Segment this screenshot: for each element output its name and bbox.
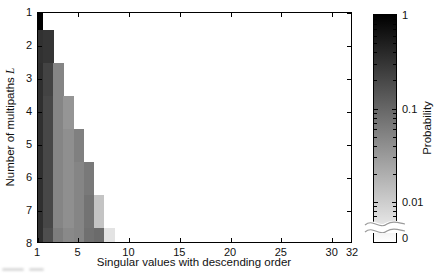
y-tick-label: 3 bbox=[0, 72, 32, 84]
y-tick-mark bbox=[38, 145, 42, 146]
y-tick-label: 8 bbox=[0, 237, 32, 249]
cropped-caption-fragment bbox=[2, 268, 24, 271]
heatmap-cell bbox=[63, 195, 74, 228]
heatmap-cell bbox=[53, 63, 64, 96]
x-tick-mark bbox=[332, 13, 333, 17]
colorbar-minor-tick bbox=[374, 123, 377, 124]
colorbar-minor-tick bbox=[393, 129, 396, 130]
colorbar-major-tick bbox=[392, 109, 396, 110]
heatmap-cell bbox=[74, 195, 85, 228]
colorbar-minor-tick bbox=[374, 211, 377, 212]
y-tick-label: 6 bbox=[0, 171, 32, 183]
heatmap-cell bbox=[53, 129, 64, 162]
x-tick-mark bbox=[129, 13, 130, 17]
colorbar-major-tick bbox=[374, 109, 378, 110]
y-tick-mark bbox=[38, 79, 42, 80]
colorbar-tick-label: 0 bbox=[402, 232, 408, 244]
y-tick-label: 7 bbox=[0, 204, 32, 216]
colorbar-label: Probability bbox=[421, 101, 433, 155]
colorbar-minor-tick bbox=[374, 137, 377, 138]
heatmap-cell bbox=[53, 96, 64, 129]
x-tick-mark bbox=[38, 13, 39, 17]
y-tick-mark bbox=[347, 46, 351, 47]
y-tick-mark bbox=[347, 13, 351, 14]
cropped-caption-fragment bbox=[29, 268, 44, 271]
heatmap-cell bbox=[53, 228, 64, 244]
heatmap-cell bbox=[43, 96, 54, 129]
y-tick-mark bbox=[38, 178, 42, 179]
colorbar-major-tick bbox=[392, 15, 396, 16]
colorbar-minor-tick bbox=[393, 211, 396, 212]
colorbar-minor-tick bbox=[393, 123, 396, 124]
heatmap-cell bbox=[63, 228, 74, 244]
colorbar-minor-tick bbox=[374, 24, 377, 25]
colorbar-major-tick bbox=[374, 202, 378, 203]
heatmap-cell bbox=[43, 195, 54, 228]
heatmap-cell bbox=[94, 195, 105, 228]
x-tick-label: 20 bbox=[224, 246, 236, 258]
y-tick-mark bbox=[347, 145, 351, 146]
colorbar-tick-label: 1 bbox=[402, 9, 408, 21]
heatmap-cell bbox=[84, 228, 95, 244]
x-tick-mark bbox=[332, 238, 333, 242]
heatmap-cell bbox=[63, 96, 74, 129]
heatmap-cell bbox=[43, 30, 54, 63]
y-tick-mark bbox=[38, 13, 42, 14]
y-tick-mark bbox=[38, 112, 42, 113]
y-tick-label: 2 bbox=[0, 39, 32, 51]
x-tick-mark bbox=[231, 13, 232, 17]
colorbar-minor-tick bbox=[374, 118, 377, 119]
x-tick-label: 10 bbox=[122, 246, 134, 258]
heatmap-cell bbox=[104, 228, 115, 244]
colorbar-minor-tick bbox=[374, 113, 377, 114]
y-axis-label: Number of multipaths L bbox=[4, 68, 16, 187]
colorbar-minor-tick bbox=[393, 80, 396, 81]
colorbar-tick-label: 0.01 bbox=[402, 196, 423, 208]
heatmap-plot-area bbox=[37, 12, 352, 243]
heatmap-cell bbox=[53, 195, 64, 228]
colorbar-minor-tick bbox=[393, 43, 396, 44]
heatmap-cell bbox=[53, 162, 64, 195]
colorbar-minor-tick bbox=[374, 216, 377, 217]
heatmap-cell bbox=[63, 162, 74, 195]
heatmap-cell bbox=[74, 129, 85, 162]
colorbar-minor-tick bbox=[374, 64, 377, 65]
colorbar-minor-tick bbox=[374, 174, 377, 175]
colorbar-minor-tick bbox=[374, 146, 377, 147]
colorbar-minor-tick bbox=[393, 52, 396, 53]
heatmap-cell bbox=[43, 63, 54, 96]
x-tick-mark bbox=[281, 13, 282, 17]
heatmap-cell bbox=[43, 228, 54, 244]
heatmap-figure: Singular values with descending order Nu… bbox=[0, 0, 441, 276]
colorbar-minor-tick bbox=[374, 129, 377, 130]
heatmap-cell bbox=[43, 129, 54, 162]
x-tick-mark bbox=[78, 238, 79, 242]
colorbar-minor-tick bbox=[374, 157, 377, 158]
colorbar-minor-tick bbox=[393, 36, 396, 37]
y-tick-mark bbox=[38, 211, 42, 212]
colorbar-gradient bbox=[373, 14, 397, 225]
y-tick-mark bbox=[347, 178, 351, 179]
x-tick-mark bbox=[129, 238, 130, 242]
y-tick-label: 1 bbox=[0, 6, 32, 18]
colorbar-minor-tick bbox=[393, 19, 396, 20]
y-tick-mark bbox=[347, 211, 351, 212]
x-tick-mark bbox=[78, 13, 79, 17]
x-tick-label: 30 bbox=[326, 246, 338, 258]
colorbar-zero-stub bbox=[373, 233, 397, 243]
colorbar-minor-tick bbox=[393, 29, 396, 30]
colorbar-major-tick bbox=[392, 202, 396, 203]
colorbar-minor-tick bbox=[393, 137, 396, 138]
x-tick-label: 1 bbox=[34, 246, 40, 258]
colorbar-minor-tick bbox=[393, 174, 396, 175]
colorbar-minor-tick bbox=[374, 52, 377, 53]
heatmap-cell bbox=[84, 162, 95, 195]
x-tick-mark bbox=[180, 238, 181, 242]
heatmap-cell bbox=[63, 129, 74, 162]
x-tick-label: 5 bbox=[75, 246, 81, 258]
colorbar-minor-tick bbox=[393, 118, 396, 119]
colorbar-minor-tick bbox=[393, 157, 396, 158]
colorbar-minor-tick bbox=[374, 29, 377, 30]
heatmap-cell bbox=[74, 162, 85, 195]
colorbar-minor-tick bbox=[393, 216, 396, 217]
